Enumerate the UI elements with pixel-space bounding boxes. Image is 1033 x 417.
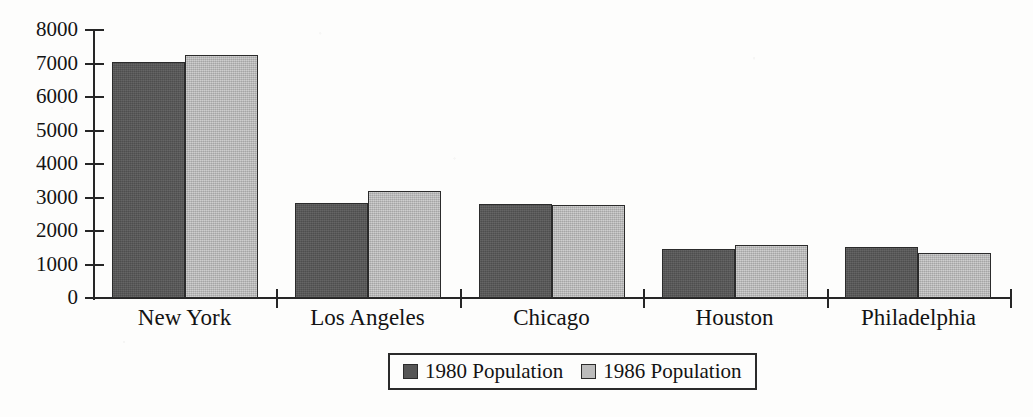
category-label-new-york: New York <box>93 304 276 332</box>
legend-entry-1986[interactable]: 1986 Population <box>581 361 741 382</box>
bar-chicago-1980[interactable] <box>479 204 552 298</box>
y-axis-tick-label: 3000 <box>8 187 78 208</box>
bar-group <box>295 30 441 298</box>
y-axis-tick-label: 8000 <box>8 19 78 40</box>
category-label-philadelphia: Philadelphia <box>827 304 1010 332</box>
y-axis-tick-label: 1000 <box>8 254 78 275</box>
plot-area <box>93 30 1010 298</box>
bar-group <box>112 30 258 298</box>
legend-entry-1980[interactable]: 1980 Population <box>403 361 563 382</box>
chart-legend: 1980 Population1986 Population <box>388 353 757 390</box>
y-axis-tick-label: 4000 <box>8 153 78 174</box>
bar-group <box>845 30 991 298</box>
bar-houston-1986[interactable] <box>735 245 808 298</box>
y-axis-tick-label: 7000 <box>8 53 78 74</box>
bar-houston-1980[interactable] <box>662 249 735 298</box>
bar-los-angeles-1980[interactable] <box>295 203 368 298</box>
legend-swatch-icon <box>581 364 596 379</box>
bar-chicago-1986[interactable] <box>552 205 625 298</box>
y-axis-tick-label: 2000 <box>8 220 78 241</box>
y-axis-tick-label: 6000 <box>8 86 78 107</box>
category-label-los-angeles: Los Angeles <box>276 304 459 332</box>
bar-group <box>479 30 625 298</box>
category-label-houston: Houston <box>643 304 826 332</box>
bar-new-york-1980[interactable] <box>112 62 185 298</box>
bar-philadelphia-1980[interactable] <box>845 247 918 298</box>
legend-label: 1980 Population <box>425 361 563 382</box>
y-axis-tick-label: 0 <box>8 287 78 308</box>
bar-new-york-1986[interactable] <box>185 55 258 298</box>
bar-chart: 800070006000500040003000200010000 New Yo… <box>0 0 1033 417</box>
bar-los-angeles-1986[interactable] <box>368 191 441 298</box>
bar-group <box>662 30 808 298</box>
y-axis-tick-label: 5000 <box>8 120 78 141</box>
legend-label: 1986 Population <box>603 361 741 382</box>
category-label-chicago: Chicago <box>460 304 643 332</box>
x-axis-tick <box>1010 289 1012 308</box>
legend-swatch-icon <box>403 364 418 379</box>
bar-philadelphia-1986[interactable] <box>918 253 991 298</box>
